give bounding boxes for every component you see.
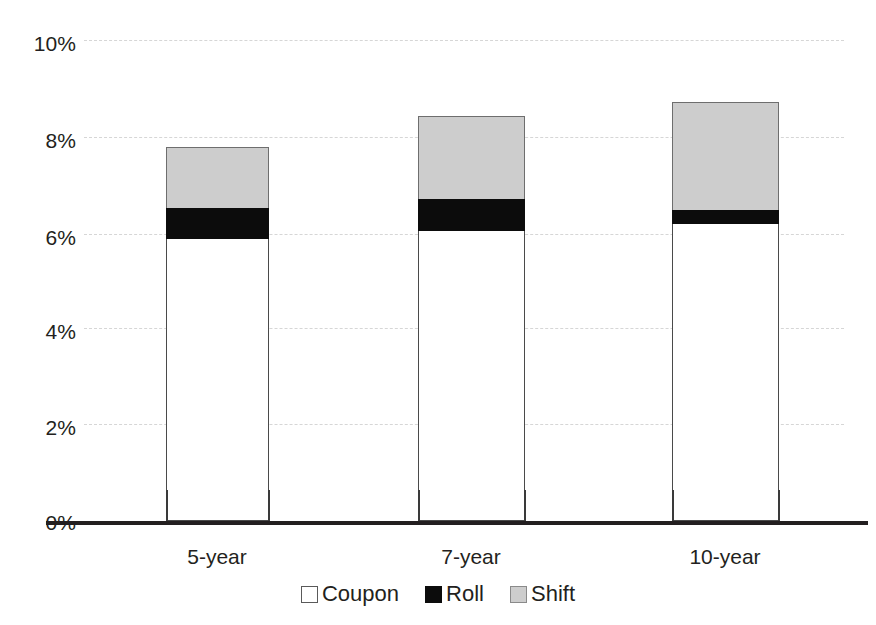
bar-segment-roll[interactable] xyxy=(166,208,269,240)
y-tick-label-4: 4% xyxy=(6,321,76,342)
bar-segment-coupon[interactable] xyxy=(418,231,525,521)
bar-segment-shift[interactable] xyxy=(672,102,779,211)
legend-item-roll[interactable]: Roll xyxy=(425,583,484,605)
bar-7-year[interactable] xyxy=(418,116,525,521)
legend-label-coupon: Coupon xyxy=(322,583,399,605)
tick-mark xyxy=(524,490,526,521)
bar-segment-roll[interactable] xyxy=(672,210,779,225)
legend-label-shift: Shift xyxy=(531,583,575,605)
bar-5-year[interactable] xyxy=(166,147,269,521)
x-category-label-5-year: 5-year xyxy=(147,546,287,567)
tick-mark xyxy=(166,490,168,521)
roll-swatch-icon xyxy=(425,586,442,603)
x-category-label-10-year: 10-year xyxy=(655,546,795,567)
legend-item-coupon[interactable]: Coupon xyxy=(301,583,399,605)
tick-mark xyxy=(268,490,270,521)
bar-segment-shift[interactable] xyxy=(166,147,269,209)
gridline-10 xyxy=(84,40,844,41)
x-category-label-7-year: 7-year xyxy=(401,546,541,567)
bar-10-year[interactable] xyxy=(672,102,779,521)
tick-mark xyxy=(418,490,420,521)
coupon-swatch-icon xyxy=(301,586,318,603)
y-tick-label-8: 8% xyxy=(6,130,76,151)
y-tick-label-6: 6% xyxy=(6,227,76,248)
bar-segment-coupon[interactable] xyxy=(166,239,269,521)
legend-label-roll: Roll xyxy=(446,583,484,605)
plot-area: 10% 8% 6% 4% 2% 0% xyxy=(0,0,876,625)
shift-swatch-icon xyxy=(510,586,527,603)
bar-segment-shift[interactable] xyxy=(418,116,525,200)
legend-item-shift[interactable]: Shift xyxy=(510,583,575,605)
tick-mark xyxy=(778,490,780,521)
x-axis-line xyxy=(46,521,868,525)
tick-mark xyxy=(672,490,674,521)
stacked-bar-chart: 10% 8% 6% 4% 2% 0% xyxy=(0,0,876,625)
y-tick-label-10: 10% xyxy=(6,33,76,54)
bar-segment-coupon[interactable] xyxy=(672,224,779,521)
chart-legend: Coupon Roll Shift xyxy=(0,583,876,605)
bar-segment-roll[interactable] xyxy=(418,199,525,232)
y-tick-label-2: 2% xyxy=(6,417,76,438)
